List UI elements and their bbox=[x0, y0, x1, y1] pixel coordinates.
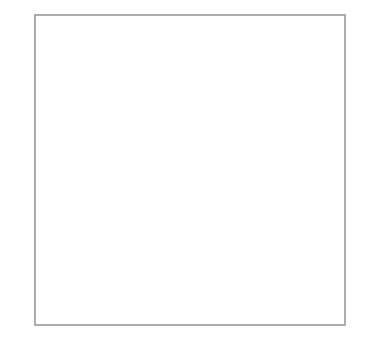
coordinate-plane-figure bbox=[0, 0, 367, 351]
coordinate-plane-svg bbox=[0, 0, 367, 351]
figure-background bbox=[0, 0, 367, 351]
